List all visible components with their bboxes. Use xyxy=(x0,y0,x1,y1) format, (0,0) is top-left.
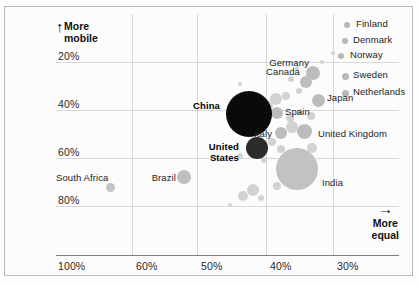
bubble-brazil[interactable] xyxy=(177,170,191,184)
bubble-italy[interactable] xyxy=(275,127,287,139)
background-bubble xyxy=(261,157,267,163)
plot-area: FinlandDenmarkNorwaySwedenNetherlandsGer… xyxy=(56,14,399,255)
xtick-50: 50% xyxy=(201,260,222,272)
background-bubble xyxy=(228,203,232,207)
label-united-kingdom: United Kingdom xyxy=(318,128,387,139)
bubble-sweden[interactable] xyxy=(342,73,349,80)
label-china: China xyxy=(56,100,220,111)
label-italy: Italy xyxy=(56,128,272,139)
chart-figure: FinlandDenmarkNorwaySwedenNetherlandsGer… xyxy=(0,0,419,286)
background-bubble xyxy=(238,82,242,86)
background-bubble xyxy=(258,195,264,201)
ytick-60: 60% xyxy=(58,146,79,158)
bubble-india[interactable] xyxy=(276,148,318,190)
xtick-100: 100% xyxy=(58,260,85,272)
label-japan: Japan xyxy=(327,92,353,103)
label-south-africa: South Africa xyxy=(56,172,104,183)
ytick-40: 40% xyxy=(58,98,79,110)
label-netherlands: Netherlands xyxy=(353,86,405,97)
bubble-south-africa[interactable] xyxy=(106,183,115,192)
xtick-30: 30% xyxy=(337,260,358,272)
label-united-states: United States xyxy=(56,142,239,163)
x-axis-line xyxy=(56,255,399,256)
background-bubble xyxy=(282,92,290,100)
background-bubble xyxy=(331,51,335,55)
background-bubble xyxy=(320,60,324,64)
bubble-united-states[interactable] xyxy=(246,137,268,159)
label-norway: Norway xyxy=(350,49,383,60)
bubble-united-kingdom[interactable] xyxy=(297,124,312,139)
label-spain: Spain xyxy=(285,106,310,117)
label-canada: Canada xyxy=(56,66,300,77)
xtick-60: 60% xyxy=(136,260,157,272)
bubble-spain[interactable] xyxy=(271,107,283,119)
bubble-finland[interactable] xyxy=(344,22,350,28)
bubble-denmark[interactable] xyxy=(342,38,348,44)
background-bubble xyxy=(296,88,302,94)
label-india: India xyxy=(322,177,343,188)
background-bubble xyxy=(273,182,281,190)
bubble-norway[interactable] xyxy=(338,53,344,59)
label-finland: Finland xyxy=(356,18,388,29)
more-mobile-caption: More mobile xyxy=(64,20,98,44)
label-denmark: Denmark xyxy=(353,34,392,45)
background-bubble xyxy=(268,138,276,146)
up-arrow-icon: ↑ xyxy=(56,20,64,34)
bubble-canada[interactable] xyxy=(300,76,312,88)
more-equal-caption: More equal xyxy=(372,218,399,241)
xtick-40: 40% xyxy=(270,260,291,272)
right-arrow-icon: → xyxy=(378,203,393,215)
bubble-japan[interactable] xyxy=(312,94,325,107)
ytick-80: 80% xyxy=(58,194,79,206)
label-sweden: Sweden xyxy=(353,69,388,80)
ytick-20: 20% xyxy=(58,50,79,62)
background-bubble xyxy=(238,191,248,201)
background-bubble xyxy=(247,184,259,196)
